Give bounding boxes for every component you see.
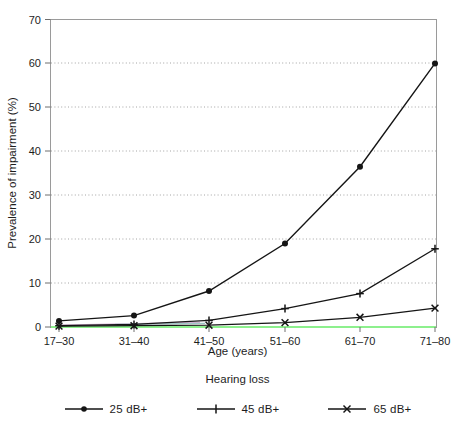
legend: Age (years) Hearing loss 25 dB+ 45 dB+ xyxy=(0,345,475,429)
x-tick-label: 51–60 xyxy=(270,335,301,345)
legend-label-25db: 25 dB+ xyxy=(110,403,148,415)
y-tick-label: 70 xyxy=(29,14,41,26)
y-tick-label: 60 xyxy=(29,57,41,69)
legend-label-65db: 65 dB+ xyxy=(373,403,411,415)
figure-hearing-loss-prevalence: 70 60 50 40 30 20 10 0 Prevalence of imp… xyxy=(0,0,475,429)
y-axis-title: Prevalence of impairment (%) xyxy=(6,97,18,249)
legend-label-45db: 45 dB+ xyxy=(242,403,280,415)
x-tick-label: 17–30 xyxy=(44,335,75,345)
y-tick-label: 40 xyxy=(29,145,41,157)
y-tick-label: 10 xyxy=(29,277,41,289)
filled-circle-icon xyxy=(64,403,104,415)
y-tick-label: 20 xyxy=(29,233,41,245)
plot-frame xyxy=(51,20,437,328)
plot-area: 70 60 50 40 30 20 10 0 Prevalence of imp… xyxy=(0,0,475,345)
legend-items: 25 dB+ 45 dB+ 65 dB+ xyxy=(0,403,475,415)
y-tick-label: 0 xyxy=(35,321,41,333)
x-cross-icon xyxy=(327,403,367,415)
line-chart: 70 60 50 40 30 20 10 0 Prevalence of imp… xyxy=(0,0,475,345)
legend-item-65db[interactable]: 65 dB+ xyxy=(327,403,411,415)
plus-bar-icon xyxy=(196,403,236,415)
x-tick-label: 61–70 xyxy=(345,335,376,345)
legend-title: Hearing loss xyxy=(0,373,475,385)
y-axis-ticks xyxy=(45,20,51,328)
legend-item-25db[interactable]: 25 dB+ xyxy=(64,403,148,415)
y-tick-label: 30 xyxy=(29,189,41,201)
x-axis-title: Age (years) xyxy=(0,345,475,357)
x-tick-label: 31–40 xyxy=(119,335,150,345)
x-tick-label: 71–80 xyxy=(420,335,451,345)
x-tick-label: 41–50 xyxy=(194,335,225,345)
y-tick-label: 50 xyxy=(29,101,41,113)
legend-item-45db[interactable]: 45 dB+ xyxy=(196,403,280,415)
